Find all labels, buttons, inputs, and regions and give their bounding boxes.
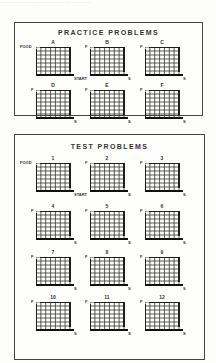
test-maze-0: 1FOODSTART — [36, 163, 70, 193]
practice-maze-2: CFS — [145, 47, 179, 77]
start-label: S — [183, 286, 186, 291]
maze-label: E — [90, 82, 124, 88]
start-label: S — [128, 192, 131, 197]
maze-label: 1 — [36, 155, 70, 161]
maze-label: D — [36, 82, 70, 88]
start-label: S — [128, 240, 131, 245]
maze-label: 6 — [145, 203, 179, 209]
maze-label: 2 — [90, 155, 124, 161]
food-label: F — [85, 44, 87, 49]
test-maze-5: 6FS — [145, 211, 179, 241]
test-maze-1: 2FS — [90, 163, 124, 193]
food-label: F — [85, 254, 87, 259]
caption-text: …………………………………… — [0, 0, 200, 4]
start-label: START — [74, 192, 87, 197]
food-label: F — [85, 299, 87, 304]
maze-label: 12 — [145, 294, 179, 300]
food-label: FOOD — [20, 44, 32, 49]
maze-label: B — [90, 39, 124, 45]
test-maze-2: 3FS — [145, 163, 179, 193]
start-label: S — [183, 331, 186, 336]
test-maze-7: 8FS — [90, 257, 124, 287]
maze-label: C — [145, 39, 179, 45]
start-label: S — [183, 119, 186, 124]
maze-label: 10 — [36, 294, 70, 300]
food-label: F — [31, 208, 33, 213]
start-label: S — [74, 240, 77, 245]
test-maze-4: 5FS — [90, 211, 124, 241]
practice-maze-4: EFS — [90, 90, 124, 120]
maze-label: F — [145, 82, 179, 88]
practice-maze-3: DFS — [36, 90, 70, 120]
maze-label: 4 — [36, 203, 70, 209]
start-label: START — [74, 76, 87, 81]
practice-maze-5: FFS — [145, 90, 179, 120]
start-label: S — [183, 76, 186, 81]
start-label: S — [74, 331, 77, 336]
maze-label: 3 — [145, 155, 179, 161]
test-maze-10: 11FS — [90, 302, 124, 332]
food-label: F — [85, 208, 87, 213]
food-label: F — [85, 87, 87, 92]
maze-label: 5 — [90, 203, 124, 209]
food-label: F — [31, 87, 33, 92]
test-maze-9: 10FS — [36, 302, 70, 332]
start-label: S — [128, 286, 131, 291]
cut-off-caption: …………………………………… — [0, 0, 200, 6]
test-maze-11: 12FS — [145, 302, 179, 332]
maze-label: 9 — [145, 249, 179, 255]
start-label: S — [128, 76, 131, 81]
maze-label: A — [36, 39, 70, 45]
food-label: FOOD — [20, 160, 32, 165]
food-label: F — [140, 299, 142, 304]
start-label: S — [183, 192, 186, 197]
maze-label: 7 — [36, 249, 70, 255]
practice-title: PRACTICE PROBLEMS — [15, 29, 202, 36]
maze-label: 8 — [90, 249, 124, 255]
food-label: F — [140, 87, 142, 92]
start-label: S — [74, 119, 77, 124]
start-label: S — [128, 119, 131, 124]
maze-label: 11 — [90, 294, 124, 300]
food-label: F — [31, 254, 33, 259]
start-label: S — [128, 331, 131, 336]
start-label: S — [74, 286, 77, 291]
food-label: F — [85, 160, 87, 165]
food-label: F — [140, 160, 142, 165]
food-label: F — [31, 299, 33, 304]
food-label: F — [140, 254, 142, 259]
food-label: F — [140, 208, 142, 213]
start-label: S — [183, 240, 186, 245]
practice-maze-1: BFS — [90, 47, 124, 77]
test-title: TEST PROBLEMS — [15, 143, 204, 150]
practice-maze-0: AFOODSTART — [36, 47, 70, 77]
food-label: F — [140, 44, 142, 49]
test-maze-8: 9FS — [145, 257, 179, 287]
test-maze-6: 7FS — [36, 257, 70, 287]
test-maze-3: 4FS — [36, 211, 70, 241]
